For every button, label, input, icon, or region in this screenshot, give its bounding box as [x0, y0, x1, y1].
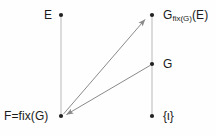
- node-dot-G: [150, 62, 154, 66]
- node-label-E: E: [44, 9, 52, 21]
- node-label-Gfix-G-E: Gfix(G)(E): [163, 9, 208, 23]
- arrow-G-to-F: [67, 66, 151, 115]
- node-dot-F: [59, 114, 63, 118]
- arrow-F-to-GfixGE: [64, 20, 146, 115]
- node-label-F: F=fix(G): [4, 110, 48, 122]
- node-label-Gfix-subscript: fix(G): [172, 14, 192, 23]
- node-label-unit-set: {ι}: [163, 110, 174, 122]
- node-label-Gfix-suffix: (E): [192, 8, 208, 22]
- node-label-G: G: [163, 58, 172, 70]
- node-dot-E: [59, 13, 63, 17]
- node-dot-unit: [150, 114, 154, 118]
- node-dot-GfixGE: [150, 13, 154, 17]
- diagram-canvas: E F=fix(G) Gfix(G)(E) G {ι}: [0, 0, 216, 136]
